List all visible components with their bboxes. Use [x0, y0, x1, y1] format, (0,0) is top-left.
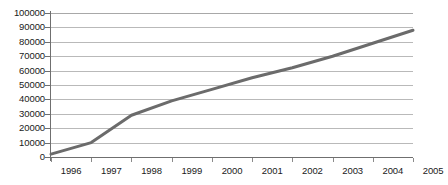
- y-axis-label: 90000: [0, 22, 45, 32]
- y-axis-tick: [45, 85, 51, 86]
- x-axis-label: 2005: [413, 166, 448, 176]
- x-axis-label: 1997: [91, 166, 131, 176]
- x-axis-tick: [252, 158, 253, 162]
- x-axis-tick: [172, 158, 173, 162]
- y-axis-label: 100000: [0, 8, 45, 18]
- x-axis-label: 2002: [292, 166, 332, 176]
- y-axis-tick: [45, 56, 51, 57]
- y-axis-label: 10000: [0, 138, 45, 148]
- y-axis-label: 30000: [0, 109, 45, 119]
- x-axis-tick: [212, 158, 213, 162]
- y-axis-label: 40000: [0, 94, 45, 104]
- x-axis-tick: [51, 158, 52, 162]
- x-axis-tick: [333, 158, 334, 162]
- x-axis-tick: [91, 158, 92, 162]
- y-axis-label: 80000: [0, 37, 45, 47]
- y-axis-label: 50000: [0, 80, 45, 90]
- y-axis-label: 70000: [0, 51, 45, 61]
- x-axis-label: 2004: [373, 166, 413, 176]
- y-axis-label: 20000: [0, 123, 45, 133]
- y-axis-tick: [45, 42, 51, 43]
- x-axis-tick: [292, 158, 293, 162]
- series-line: [51, 30, 413, 154]
- y-axis-tick: [45, 71, 51, 72]
- x-axis-tick: [131, 158, 132, 162]
- y-axis-tick: [45, 143, 51, 144]
- x-axis-tick: [373, 158, 374, 162]
- x-axis-label: 1996: [51, 166, 91, 176]
- x-axis-label: 2000: [212, 166, 252, 176]
- x-axis-tick: [413, 158, 414, 162]
- y-axis-tick: [45, 27, 51, 28]
- y-axis-tick: [45, 99, 51, 100]
- y-axis-label: 60000: [0, 66, 45, 76]
- x-axis-label: 1999: [172, 166, 212, 176]
- x-axis-label: 1998: [132, 166, 172, 176]
- x-axis-label: 2003: [333, 166, 373, 176]
- y-axis-label: 0: [0, 152, 45, 162]
- x-axis-label: 2001: [252, 166, 292, 176]
- y-axis-tick: [45, 13, 51, 14]
- y-axis-tick: [45, 114, 51, 115]
- y-axis-tick: [45, 128, 51, 129]
